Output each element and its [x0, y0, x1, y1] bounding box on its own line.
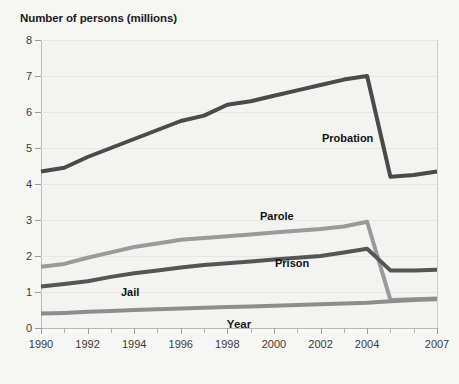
y-axis-tick-label: 6 — [26, 106, 32, 118]
y-axis-tick-label: 2 — [26, 250, 32, 262]
y-axis-tick-label: 5 — [26, 142, 32, 154]
x-axis-tick-label: 2004 — [355, 338, 379, 350]
x-axis-tick-label: 1998 — [215, 338, 239, 350]
series-line-probation — [41, 76, 437, 177]
x-axis-tick-label: 1990 — [29, 338, 53, 350]
x-axis-tick — [437, 328, 438, 334]
axis-right-border — [437, 40, 438, 328]
y-axis-tick-label: 1 — [26, 286, 32, 298]
series-label-prison: Prison — [275, 257, 309, 269]
series-label-parole: Parole — [260, 210, 294, 222]
chart-page: Number of persons (millions) 012345678 1… — [0, 0, 459, 384]
series-line-jail — [41, 299, 437, 313]
x-axis-tick-label: 2002 — [308, 338, 332, 350]
series-label-probation: Probation — [322, 132, 373, 144]
y-axis-tick-label: 0 — [26, 322, 32, 334]
x-axis-tick-label: 2007 — [425, 338, 449, 350]
series-label-jail: Jail — [121, 286, 139, 298]
y-axis-tick-label: 3 — [26, 214, 32, 226]
chart-lines — [41, 40, 437, 328]
x-axis-tick-label: 1992 — [75, 338, 99, 350]
x-axis-tick-label: 1996 — [169, 338, 193, 350]
y-axis-tick-label: 8 — [26, 34, 32, 46]
y-axis-tick-label: 4 — [26, 178, 32, 190]
y-axis-title: Number of persons (millions) — [20, 12, 177, 24]
x-axis-tick-label: 2000 — [262, 338, 286, 350]
plot-area: 012345678 199019921994199619982000200220… — [41, 40, 437, 328]
x-axis-tick-label: 1994 — [122, 338, 146, 350]
x-axis-title: Year — [41, 318, 437, 330]
y-axis-tick-label: 7 — [26, 70, 32, 82]
